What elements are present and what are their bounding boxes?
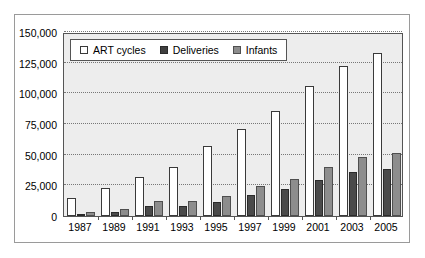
bar-group [166, 34, 200, 216]
bar-art-2001 [305, 86, 314, 216]
bar-art-1997 [237, 129, 246, 216]
y-axis-tick-label: 0 [51, 212, 57, 222]
bars-layer [64, 34, 402, 216]
bar-group [234, 34, 268, 216]
bar-group [336, 34, 370, 216]
x-axis-tick-label: 2005 [369, 221, 403, 233]
chart-legend: ART cyclesDeliveriesInfants [70, 39, 287, 61]
bar-infants-1993 [188, 201, 197, 216]
bar-deliveries-1991 [145, 206, 154, 216]
bar-art-1995 [203, 146, 212, 216]
x-axis-tick-label: 2003 [335, 221, 369, 233]
bar-deliveries-2005 [383, 169, 392, 216]
x-axis-tick-label: 1997 [233, 221, 267, 233]
x-axis-tick-mark [370, 216, 371, 220]
bar-art-1991 [135, 177, 144, 216]
bar-art-2005 [373, 53, 382, 216]
gridline [64, 31, 402, 32]
bar-art-1987 [67, 198, 76, 216]
x-axis-tick-label: 1991 [131, 221, 165, 233]
bar-deliveries-1995 [213, 202, 222, 216]
bar-infants-1991 [154, 201, 163, 216]
bar-deliveries-2003 [349, 172, 358, 216]
x-axis-tick-mark [200, 216, 201, 220]
x-axis-tick-mark [132, 216, 133, 220]
legend-item: ART cycles [80, 44, 146, 56]
y-axis-tick-label: 125,000 [19, 59, 57, 69]
bar-group [98, 34, 132, 216]
y-axis-tick-label: 50,000 [25, 151, 57, 161]
y-axis: 025,00050,00075,000100,000125,000150,000 [0, 33, 57, 217]
legend-item: Deliveries [160, 44, 219, 56]
bar-deliveries-1989 [111, 212, 120, 216]
bar-group [132, 34, 166, 216]
bar-deliveries-1997 [247, 195, 256, 216]
legend-item-label: Deliveries [173, 44, 219, 56]
x-axis: 1987198919911993199519971999200120032005 [63, 221, 403, 237]
x-axis-tick-mark [336, 216, 337, 220]
legend-swatch-icon [233, 46, 241, 54]
bar-infants-2001 [324, 167, 333, 216]
x-axis-tick-label: 1999 [267, 221, 301, 233]
bar-group [200, 34, 234, 216]
x-axis-tick-label: 2001 [301, 221, 335, 233]
x-axis-tick-label: 1993 [165, 221, 199, 233]
bar-art-1999 [271, 111, 280, 216]
bar-infants-1997 [256, 186, 265, 216]
bar-group [370, 34, 404, 216]
x-axis-tick-label: 1995 [199, 221, 233, 233]
bar-art-1989 [101, 188, 110, 216]
x-axis-tick-mark [166, 216, 167, 220]
x-axis-tick-mark [302, 216, 303, 220]
bar-art-1993 [169, 167, 178, 216]
bar-deliveries-1999 [281, 189, 290, 216]
bar-art-2003 [339, 66, 348, 216]
y-axis-tick-label: 100,000 [19, 89, 57, 99]
y-axis-tick-label: 25,000 [25, 181, 57, 191]
x-axis-tick-mark [268, 216, 269, 220]
bar-infants-1995 [222, 196, 231, 216]
x-axis-tick-mark [234, 216, 235, 220]
y-axis-tick-label: 150,000 [19, 28, 57, 38]
bar-deliveries-1993 [179, 206, 188, 216]
bar-group [64, 34, 98, 216]
legend-swatch-icon [160, 46, 168, 54]
legend-item-label: ART cycles [93, 44, 146, 56]
bar-infants-1989 [120, 209, 129, 216]
bar-infants-1999 [290, 179, 299, 216]
bar-deliveries-1987 [77, 214, 86, 216]
legend-item-label: Infants [246, 44, 278, 56]
chart-figure: 025,00050,00075,000100,000125,000150,000… [0, 0, 425, 258]
bar-deliveries-2001 [315, 180, 324, 216]
x-axis-tick-label: 1987 [63, 221, 97, 233]
y-axis-tick-label: 75,000 [25, 120, 57, 130]
x-axis-tick-label: 1989 [97, 221, 131, 233]
legend-swatch-icon [80, 46, 88, 54]
bar-group [268, 34, 302, 216]
bar-group [302, 34, 336, 216]
bar-infants-1987 [86, 212, 95, 216]
bar-infants-2003 [358, 157, 367, 216]
bar-infants-2005 [392, 153, 401, 216]
legend-item: Infants [233, 44, 278, 56]
x-axis-tick-mark [98, 216, 99, 220]
